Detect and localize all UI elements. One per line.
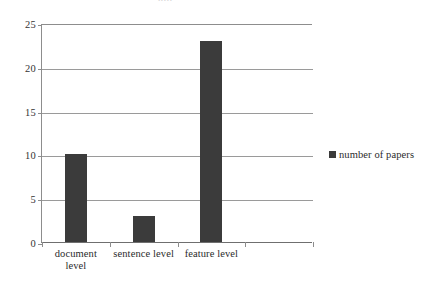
x-axis-tick-0 — [42, 242, 43, 247]
legend-label-number-of-papers: number of papers — [339, 149, 414, 160]
x-axis-tick-2 — [178, 242, 179, 247]
gridline-y-20 — [42, 69, 313, 70]
x-axis-tick-4 — [313, 242, 314, 247]
y-axis-label-25: 25 — [25, 19, 36, 30]
x-axis-label-line: level — [30, 260, 122, 272]
y-axis-tick-10 — [38, 156, 42, 157]
bar-chart: 0510152025documentlevelsentence levelfea… — [0, 0, 432, 293]
y-axis-label-5: 5 — [30, 194, 36, 205]
x-axis-label-line: feature level — [165, 248, 257, 260]
bar-document-level — [65, 154, 87, 242]
plot-area: 0510152025documentlevelsentence levelfea… — [41, 24, 312, 243]
legend-swatch-number-of-papers — [329, 151, 336, 158]
chart-legend: number of papers — [329, 149, 414, 160]
y-axis-tick-20 — [38, 69, 42, 70]
x-axis-tick-3 — [245, 242, 246, 247]
y-axis-tick-25 — [38, 25, 42, 26]
gridline-y-15 — [42, 113, 313, 114]
y-axis-label-20: 20 — [25, 63, 36, 74]
y-axis-tick-5 — [38, 200, 42, 201]
x-axis-tick-1 — [110, 242, 111, 247]
bar-feature-level — [200, 41, 222, 242]
y-axis-label-15: 15 — [25, 107, 36, 118]
x-axis-label-feature-level: feature level — [165, 248, 257, 260]
y-axis-label-10: 10 — [25, 151, 36, 162]
bar-sentence-level — [133, 216, 155, 242]
y-axis-tick-15 — [38, 113, 42, 114]
